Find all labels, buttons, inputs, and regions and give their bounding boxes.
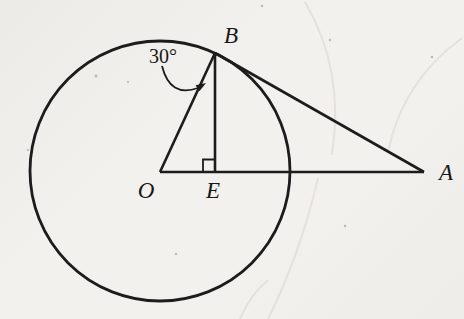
figure-svg: 30° B A O E [0, 0, 464, 319]
label-O: O [138, 178, 155, 203]
label-B: B [224, 23, 238, 48]
label-A: A [437, 160, 454, 185]
segment-OB [160, 53, 215, 172]
right-angle-mark [203, 160, 215, 173]
angle-arrow [162, 66, 206, 91]
segment-BA [215, 53, 424, 172]
geometry-figure: 30° B A O E [0, 0, 464, 319]
angle-value-label: 30° [149, 45, 177, 67]
paper-ghost-artifacts [240, 2, 462, 319]
label-E: E [205, 178, 220, 203]
